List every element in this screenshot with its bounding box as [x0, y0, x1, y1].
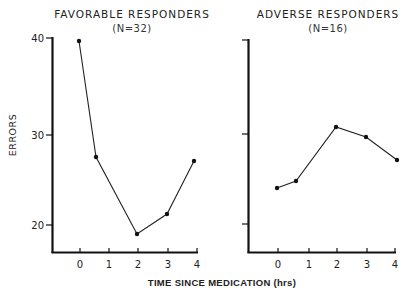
y-axis-label: ERRORS	[7, 114, 18, 156]
right-x-tick-4: 4	[392, 259, 398, 270]
right-x-tick-0: 0	[275, 259, 281, 270]
right-x-tick-3: 3	[364, 259, 370, 270]
data-point	[275, 186, 279, 190]
left-x-tick-0: 0	[77, 259, 83, 270]
data-point	[334, 125, 338, 129]
right-x-tick-1: 1	[306, 259, 312, 270]
left-y-tick-20: 20	[31, 220, 44, 231]
left-panel-title: FAVORABLE RESPONDERS	[54, 8, 210, 20]
data-point	[135, 232, 139, 236]
left-panel-axes	[46, 37, 198, 253]
left-y-tick-40: 40	[31, 33, 44, 44]
right-panel-subtitle: (N=16)	[308, 23, 347, 34]
data-point	[94, 155, 98, 159]
data-point	[364, 135, 368, 139]
left-x-tick-2: 2	[135, 259, 141, 270]
right-panel-axes	[242, 39, 396, 253]
data-point	[294, 179, 298, 183]
right-x-tick-2: 2	[334, 259, 340, 270]
chart-figure: FAVORABLE RESPONDERS (N=32) ADVERSE RESP…	[0, 0, 407, 300]
data-point	[165, 212, 169, 216]
data-point	[192, 159, 196, 163]
left-x-tick-3: 3	[165, 259, 171, 270]
data-point	[395, 158, 399, 162]
left-x-tick-4: 4	[194, 259, 200, 270]
left-x-tick-1: 1	[106, 259, 112, 270]
x-axis-label: TIME SINCE MEDICATION (hrs)	[148, 277, 296, 288]
data-point	[77, 39, 81, 43]
left-y-tick-30: 30	[31, 130, 44, 141]
left-series	[77, 39, 196, 236]
right-series	[275, 125, 399, 190]
right-panel-title: ADVERSE RESPONDERS	[257, 8, 400, 20]
left-panel-subtitle: (N=32)	[112, 23, 151, 34]
